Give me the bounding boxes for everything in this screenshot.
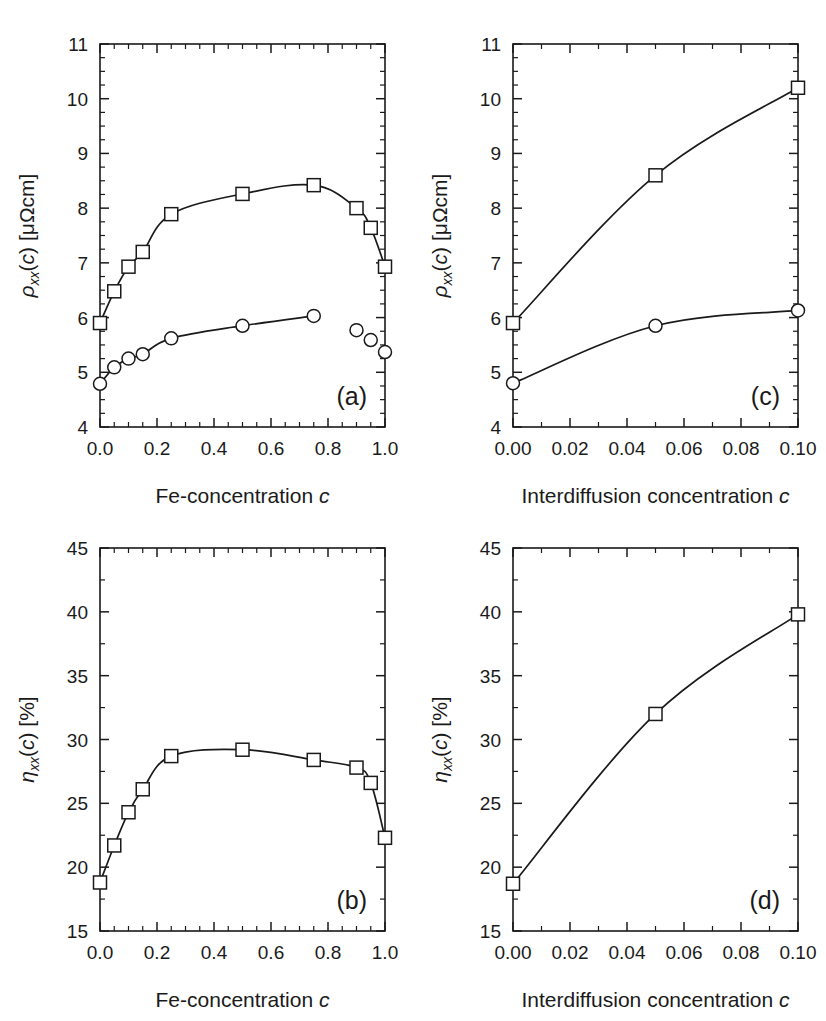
y-tick-label: 45 bbox=[67, 538, 88, 559]
plot-frame bbox=[513, 44, 798, 427]
y-tick-label: 7 bbox=[77, 253, 88, 274]
y-axis-title: ηxx(c) [%] bbox=[15, 696, 42, 782]
data-point-circle bbox=[165, 332, 178, 345]
y-tick-label: 15 bbox=[480, 921, 501, 942]
data-point-circle bbox=[649, 319, 662, 332]
x-tick-label: 0.2 bbox=[144, 942, 170, 963]
y-tick-label: 20 bbox=[67, 857, 88, 878]
data-point-square bbox=[236, 187, 249, 200]
data-line-squares bbox=[513, 614, 798, 883]
data-point-square bbox=[236, 743, 249, 756]
panel-label: (c) bbox=[751, 382, 780, 410]
data-point-square bbox=[108, 839, 121, 852]
panel-label: (b) bbox=[336, 886, 367, 914]
data-point-square bbox=[122, 260, 135, 273]
plot-frame bbox=[100, 548, 385, 931]
chart-panel-b: 0.00.20.40.60.81.015202530354045Fe-conce… bbox=[0, 522, 413, 1018]
x-tick-label: 0.0 bbox=[87, 942, 113, 963]
y-tick-label: 5 bbox=[490, 362, 501, 383]
y-tick-label: 8 bbox=[77, 198, 88, 219]
panel-c-svg: 0.000.020.040.060.080.104567891011Interd… bbox=[413, 18, 826, 514]
y-tick-label: 10 bbox=[67, 89, 88, 110]
data-point-square bbox=[507, 317, 520, 330]
data-point-square bbox=[136, 783, 149, 796]
data-point-circle bbox=[379, 346, 392, 359]
x-axis-title: Fe-concentration c bbox=[156, 484, 330, 507]
y-tick-label: 11 bbox=[481, 34, 501, 55]
x-tick-label: 0.2 bbox=[144, 438, 170, 459]
x-axis-title: Fe-concentration c bbox=[156, 988, 330, 1011]
data-point-square bbox=[649, 707, 662, 720]
x-tick-label: 0.08 bbox=[723, 438, 760, 459]
data-point-circle bbox=[350, 324, 363, 337]
x-tick-label: 0.08 bbox=[723, 942, 760, 963]
y-tick-label: 25 bbox=[67, 793, 88, 814]
data-point-circle bbox=[792, 304, 805, 317]
x-tick-label: 0.04 bbox=[609, 942, 646, 963]
data-point-square bbox=[364, 776, 377, 789]
y-tick-label: 6 bbox=[490, 308, 501, 329]
data-point-square bbox=[379, 260, 392, 273]
y-tick-label: 20 bbox=[480, 857, 501, 878]
data-point-circle bbox=[307, 309, 320, 322]
data-line-squares bbox=[100, 749, 385, 882]
y-tick-label: 4 bbox=[77, 417, 88, 438]
data-point-square bbox=[94, 876, 107, 889]
x-tick-label: 0.04 bbox=[609, 438, 646, 459]
chart-panel-a: 0.00.20.40.60.81.04567891011Fe-concentra… bbox=[0, 18, 413, 514]
x-tick-label: 1.0 bbox=[372, 438, 398, 459]
data-point-square bbox=[379, 831, 392, 844]
x-tick-label: 0.8 bbox=[315, 942, 341, 963]
plot-frame bbox=[513, 548, 798, 931]
y-tick-label: 9 bbox=[490, 143, 501, 164]
x-tick-label: 1.0 bbox=[372, 942, 398, 963]
data-point-square bbox=[792, 81, 805, 94]
y-tick-label: 4 bbox=[490, 417, 501, 438]
data-line-squares bbox=[513, 88, 798, 323]
data-point-circle bbox=[236, 319, 249, 332]
panel-b-svg: 0.00.20.40.60.81.015202530354045Fe-conce… bbox=[0, 522, 413, 1018]
x-tick-label: 0.4 bbox=[201, 942, 228, 963]
figure-canvas: 0.00.20.40.60.81.04567891011Fe-concentra… bbox=[0, 0, 826, 1021]
x-tick-label: 0.4 bbox=[201, 438, 228, 459]
data-point-square bbox=[108, 285, 121, 298]
x-tick-label: 0.00 bbox=[495, 942, 532, 963]
y-tick-label: 40 bbox=[480, 602, 501, 623]
data-point-square bbox=[136, 245, 149, 258]
x-tick-label: 0.06 bbox=[666, 438, 703, 459]
chart-panel-c: 0.000.020.040.060.080.104567891011Interd… bbox=[413, 18, 826, 514]
data-point-square bbox=[792, 608, 805, 621]
data-point-square bbox=[350, 761, 363, 774]
data-point-square bbox=[307, 753, 320, 766]
x-tick-label: 0.0 bbox=[87, 438, 113, 459]
y-axis-title: ρxx(c) [μΩcm] bbox=[428, 174, 455, 299]
data-point-square bbox=[94, 317, 107, 330]
panel-a-svg: 0.00.20.40.60.81.04567891011Fe-concentra… bbox=[0, 18, 413, 514]
y-tick-label: 25 bbox=[480, 793, 501, 814]
data-point-circle bbox=[364, 334, 377, 347]
y-tick-label: 15 bbox=[67, 921, 88, 942]
data-point-square bbox=[122, 806, 135, 819]
y-tick-label: 11 bbox=[68, 34, 88, 55]
panel-label: (a) bbox=[336, 382, 367, 410]
data-point-square bbox=[649, 169, 662, 182]
x-tick-label: 0.06 bbox=[666, 942, 703, 963]
data-point-circle bbox=[136, 348, 149, 361]
data-point-circle bbox=[108, 361, 121, 374]
data-point-square bbox=[165, 208, 178, 221]
y-tick-label: 7 bbox=[490, 253, 501, 274]
y-tick-label: 30 bbox=[67, 730, 88, 751]
data-point-circle bbox=[94, 377, 107, 390]
y-tick-label: 45 bbox=[480, 538, 501, 559]
y-tick-label: 9 bbox=[77, 143, 88, 164]
data-point-square bbox=[307, 179, 320, 192]
x-tick-label: 0.10 bbox=[780, 942, 817, 963]
y-axis-title: ηxx(c) [%] bbox=[428, 696, 455, 782]
data-point-square bbox=[364, 221, 377, 234]
chart-panel-d: 0.000.020.040.060.080.1015202530354045In… bbox=[413, 522, 826, 1018]
y-tick-label: 35 bbox=[480, 666, 501, 687]
x-axis-title: Interdiffusion concentration c bbox=[521, 988, 790, 1011]
data-point-square bbox=[507, 877, 520, 890]
x-axis-title: Interdiffusion concentration c bbox=[521, 484, 790, 507]
x-tick-label: 0.00 bbox=[495, 438, 532, 459]
